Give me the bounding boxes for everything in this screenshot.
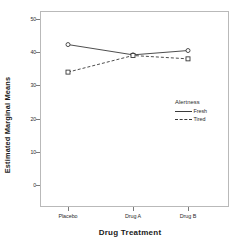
x-tick-mark bbox=[68, 207, 69, 211]
y-tick-label: 0 bbox=[20, 182, 36, 188]
x-tick-mark bbox=[188, 207, 189, 211]
x-tick-label: Drug B bbox=[165, 213, 211, 219]
y-tick-label: 50 bbox=[20, 16, 36, 22]
profile-plot-figure: Estimated Marginal Means 01020304050 Dru… bbox=[0, 0, 247, 250]
x-tick-label: Placebo bbox=[45, 213, 91, 219]
y-tick-label: 10 bbox=[20, 149, 36, 155]
legend-key-solid-line-icon bbox=[175, 108, 192, 115]
legend-label-tired: Tired bbox=[192, 116, 205, 122]
x-tick-mark bbox=[133, 207, 134, 211]
y-tick-mark bbox=[36, 85, 40, 86]
y-tick-mark bbox=[36, 19, 40, 20]
legend-entry-tired: Tired bbox=[175, 116, 223, 124]
legend-title: Alertness bbox=[175, 99, 223, 105]
y-tick-mark bbox=[36, 119, 40, 120]
legend-key-dashed-line-icon bbox=[175, 116, 192, 123]
y-tick-label: 40 bbox=[20, 49, 36, 55]
legend: Alertness Fresh Tired bbox=[175, 99, 223, 123]
y-tick-mark bbox=[36, 52, 40, 53]
y-axis-title: Estimated Marginal Means bbox=[0, 0, 14, 250]
x-tick-label: Drug A bbox=[110, 213, 156, 219]
legend-entry-fresh: Fresh bbox=[175, 108, 223, 116]
legend-label-fresh: Fresh bbox=[192, 108, 207, 114]
y-axis-tick-labels: 01020304050 bbox=[18, 0, 36, 250]
y-tick-label: 30 bbox=[20, 82, 36, 88]
x-axis-title: Drug Treatment bbox=[40, 228, 220, 237]
y-tick-label: 20 bbox=[20, 116, 36, 122]
y-tick-mark bbox=[36, 185, 40, 186]
y-tick-mark bbox=[36, 152, 40, 153]
